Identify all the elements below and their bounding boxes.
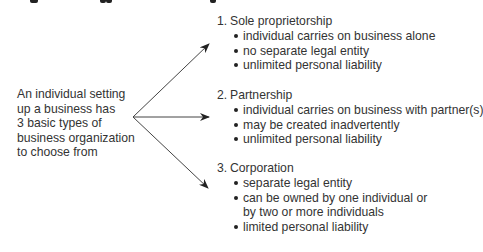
bullet-text: unlimited personal liability [243, 58, 382, 72]
bullet-icon [234, 225, 238, 229]
group-title: Corporation [230, 161, 294, 176]
bullet-icon [234, 34, 238, 38]
arrow-to-sole-proprietorship-icon [133, 44, 209, 117]
group-heading: 3. Corporation [217, 161, 443, 176]
list-item: unlimited personal liability [234, 58, 443, 73]
bullet-text: limited personal liability [243, 220, 368, 234]
group-heading: 1. Sole proprietorship [217, 14, 443, 29]
bullet-icon [234, 123, 238, 127]
bullet-icon [234, 196, 238, 200]
bullet-icon [234, 108, 238, 112]
list-item: limited personal liability [234, 220, 443, 235]
bullet-icon [234, 63, 238, 67]
group-title: Sole proprietorship [230, 14, 332, 29]
list-item: can be owned by one individual or by two… [234, 191, 438, 220]
list-item: may be created inadvertently [234, 118, 443, 133]
bullet-text: can be owned by one individual or by two… [243, 191, 427, 220]
bullet-list: individual carries on business with part… [217, 103, 443, 147]
bullet-icon [234, 181, 238, 185]
bullet-text: unlimited personal liability [243, 132, 382, 146]
group-number: 1. [217, 14, 230, 29]
bullet-text: individual carries on business alone [243, 29, 435, 43]
bullet-list: separate legal entity can be owned by on… [217, 176, 443, 234]
bullet-list: individual carries on business alone no … [217, 29, 443, 73]
group-title: Partnership [230, 88, 292, 103]
arrow-to-corporation-icon [133, 117, 208, 188]
list-item: unlimited personal liability [234, 132, 443, 147]
list-item: individual carries on business alone [234, 29, 443, 44]
group-partnership: 2. Partnership individual carries on bus… [217, 88, 443, 147]
bullet-text: individual carries on business with part… [243, 103, 483, 117]
bullet-text: separate legal entity [243, 176, 352, 190]
bullet-icon [234, 137, 238, 141]
group-sole-proprietorship: 1. Sole proprietorship individual carrie… [217, 14, 443, 73]
list-item: individual carries on business with part… [234, 103, 443, 118]
list-item: no separate legal entity [234, 44, 443, 59]
bullet-text: may be created inadvertently [243, 118, 400, 132]
group-heading: 2. Partnership [217, 88, 443, 103]
bullet-icon [234, 49, 238, 53]
group-number: 2. [217, 88, 230, 103]
bullet-text: no separate legal entity [243, 44, 369, 58]
group-corporation: 3. Corporation separate legal entity can… [217, 161, 443, 234]
group-number: 3. [217, 161, 230, 176]
list-item: separate legal entity [234, 176, 443, 191]
